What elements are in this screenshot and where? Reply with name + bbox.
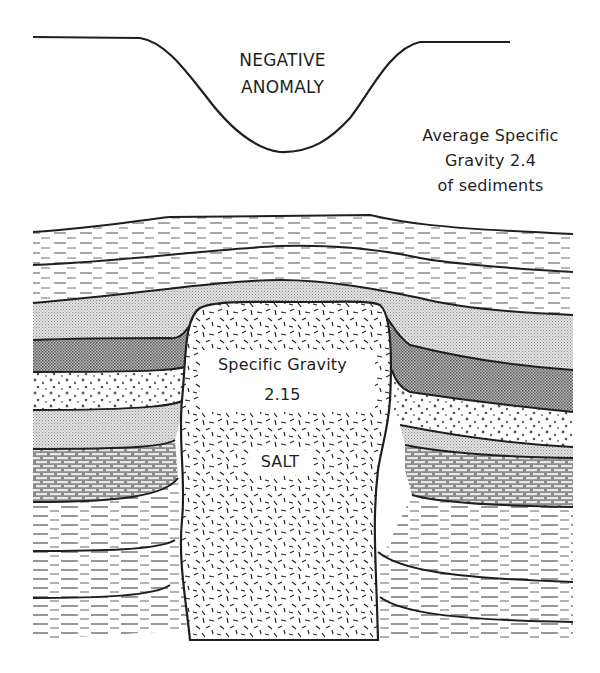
sediment-label-line1: Average Specific [408, 123, 573, 148]
sediment-label-line2: Gravity 2.4 [408, 148, 573, 173]
sediment-label-line3: of sediments [408, 173, 573, 198]
anomaly-label-line2: ANOMALY [190, 74, 375, 101]
salt-specific-gravity-label: Specific Gravity 2.15 [190, 350, 375, 410]
sediment-density-label: Average Specific Gravity 2.4 of sediment… [408, 123, 573, 198]
negative-anomaly-label: NEGATIVE ANOMALY [190, 47, 375, 101]
salt-sg-value: 2.15 [190, 380, 375, 410]
salt-sg-text: Specific Gravity [190, 350, 375, 380]
anomaly-label-line1: NEGATIVE [190, 47, 375, 74]
salt-name-label: SALT [240, 452, 320, 471]
